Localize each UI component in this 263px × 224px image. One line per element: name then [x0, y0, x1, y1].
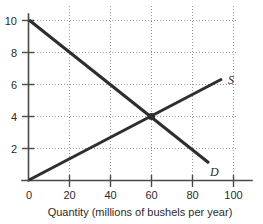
demand-curve [29, 20, 209, 163]
y-tick-label-4: 4 [11, 111, 17, 123]
supply-curve-label: S [228, 73, 234, 87]
x-tick-label-0: 0 [26, 189, 32, 201]
demand-curve-label: D [209, 165, 219, 179]
equilibrium-point-marker [148, 113, 155, 120]
supply-curve [29, 79, 222, 180]
gridlines-horizontal [28, 21, 238, 149]
chart-canvas: 10 8 6 4 2 0 20 40 60 80 100 S D Quantit… [0, 0, 263, 224]
x-tick-label-80: 80 [186, 189, 198, 201]
x-tick-label-100: 100 [224, 189, 242, 201]
y-tick-label-10: 10 [5, 15, 17, 27]
x-tick-label-20: 20 [63, 189, 75, 201]
x-tick-label-60: 60 [145, 189, 157, 201]
x-axis-title: Quantity (millions of bushels per year) [48, 206, 233, 218]
y-tick-label-2: 2 [11, 143, 17, 155]
x-tick-label-40: 40 [104, 189, 116, 201]
gridlines-vertical [70, 6, 234, 180]
supply-demand-chart: 10 8 6 4 2 0 20 40 60 80 100 S D Quantit… [0, 0, 263, 224]
y-tick-label-8: 8 [11, 47, 17, 59]
y-tick-label-6: 6 [11, 79, 17, 91]
